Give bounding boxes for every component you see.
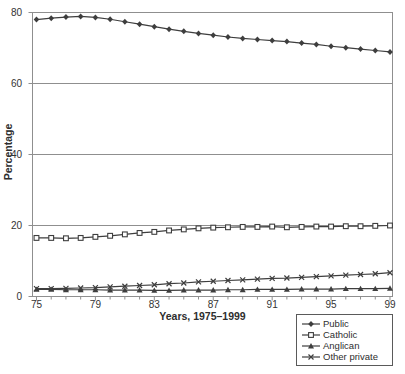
y-tick-label: 40	[0, 149, 22, 160]
legend-item-anglican: Anglican	[301, 340, 389, 351]
x-tick-label: 95	[318, 299, 344, 310]
other-private-x-marker-icon	[301, 352, 321, 362]
public-diamond-marker-icon	[301, 319, 321, 329]
series-public	[34, 13, 393, 55]
y-tick-label: 20	[0, 220, 22, 231]
y-tick-label: 80	[0, 7, 22, 18]
catholic-square-marker-icon	[301, 330, 321, 340]
x-tick-label: 91	[259, 299, 285, 310]
x-tick-label: 75	[23, 299, 49, 310]
legend-label-other-private: Other private	[323, 351, 378, 362]
gridlines	[33, 84, 393, 226]
legend-item-other-private: Other private	[301, 351, 389, 362]
x-tick-label: 87	[200, 299, 226, 310]
school-enrolment-line-chart: Percentage Years, 1975–1999 020406080 75…	[0, 0, 405, 374]
legend-label-catholic: Catholic	[323, 329, 357, 340]
series-anglican	[33, 285, 393, 293]
y-tick-label: 0	[0, 291, 22, 302]
x-tick-label: 83	[141, 299, 167, 310]
y-tick-label: 60	[0, 78, 22, 89]
legend-label-public: Public	[323, 318, 349, 329]
legend-label-anglican: Anglican	[323, 340, 359, 351]
x-tick-label: 99	[377, 299, 403, 310]
anglican-triangle-marker-icon	[301, 341, 321, 351]
axis-ticks	[29, 13, 390, 301]
x-tick-label: 79	[82, 299, 108, 310]
legend: Public Catholic Anglican Other private	[296, 314, 393, 366]
legend-item-public: Public	[301, 318, 389, 329]
legend-item-catholic: Catholic	[301, 329, 389, 340]
